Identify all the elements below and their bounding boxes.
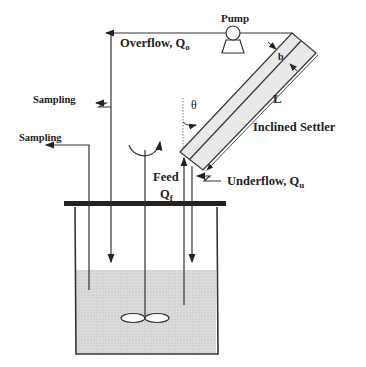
reactor-liquid (76, 270, 216, 353)
impeller-blade-right (145, 314, 169, 323)
underflow-port (197, 176, 221, 181)
length-label: L (273, 91, 282, 106)
sampling-top-label: Sampling (33, 94, 76, 105)
bioreactor-inclined-settler-diagram: Pump Overflow, Qo Sampling Sampling θ L … (0, 0, 366, 367)
feed-label: Feed (153, 170, 179, 184)
width-label: b (278, 51, 284, 62)
pump-icon (222, 26, 244, 53)
underflow-label: Underflow, Qu (227, 174, 304, 190)
overflow-label: Overflow, Qo (120, 36, 190, 52)
sampling-left-line (46, 145, 89, 290)
inclined-settler (180, 33, 316, 170)
pump-label: Pump (221, 12, 249, 24)
theta-label: θ (191, 98, 197, 112)
sampling-left-label: Sampling (19, 132, 62, 143)
settler-label: Inclined Settler (253, 120, 336, 134)
sampling-top-port (96, 103, 111, 107)
impeller-blade-left (121, 314, 145, 323)
feed-q-label: Qf (160, 187, 174, 203)
width-dimension-arrow-1 (268, 42, 276, 49)
theta-arc (183, 122, 196, 126)
